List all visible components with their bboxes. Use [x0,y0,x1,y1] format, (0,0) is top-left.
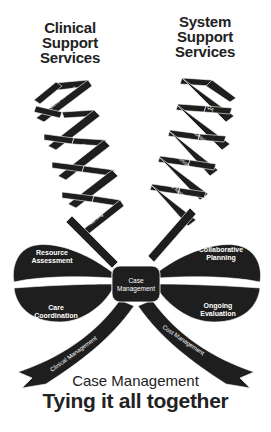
label-collaborative: Collaborative [199,246,243,253]
label-evaluation: Evaluation [200,310,235,317]
label-center-management: Management [117,285,155,293]
label-planning: Planning [206,254,236,262]
footer-subtitle: Case Management [0,372,271,389]
label-finance: Finance [153,204,171,220]
footer-title: Tying it all together [0,389,271,413]
label-coordination: Coordination [34,312,78,319]
label-care: Care [48,304,64,311]
bow-knot [112,266,160,302]
label-clinical-management: Clinical Management [49,335,98,373]
label-resource: Resource [36,249,68,256]
label-assessment: Assessment [31,257,73,264]
label-ongoing: Ongoing [204,302,233,310]
label-center-case: Case [128,277,144,284]
case-management-ribbon-diagram: Social Services Therapies Diagnostics Ph… [0,0,271,432]
